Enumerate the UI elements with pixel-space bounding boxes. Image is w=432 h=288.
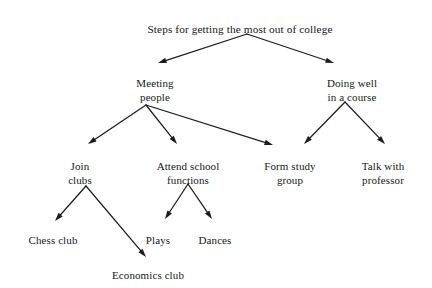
node-course: Doing wellin a course: [327, 76, 377, 104]
edge-meeting-to-functions: [146, 105, 173, 139]
node-clubs-line-1: Join: [68, 159, 92, 173]
node-study-line-2: group: [264, 173, 315, 187]
edges-group: [55, 34, 385, 257]
node-professor-line-2: professor: [362, 173, 405, 187]
node-dances-line-1: Dances: [199, 233, 232, 247]
node-dances: Dances: [199, 233, 232, 247]
node-professor-line-1: Talk with: [362, 159, 405, 173]
arrowhead-root-to-meeting: [158, 58, 167, 63]
node-economics: Economics club: [112, 268, 184, 282]
diagram-title: Steps for getting the most out of colleg…: [147, 22, 332, 36]
node-functions-line-1: Attend school: [157, 159, 220, 173]
node-chess: Chess club: [29, 233, 78, 247]
node-meeting-line-1: Meeting: [136, 76, 173, 90]
edge-course-to-professor: [345, 102, 381, 139]
arrowhead-functions-to-plays: [165, 210, 172, 219]
node-plays-line-1: Plays: [146, 233, 170, 247]
edge-functions-to-plays: [168, 184, 188, 214]
edge-meeting-to-clubs: [93, 105, 146, 140]
edge-functions-to-dances: [188, 184, 208, 214]
node-course-line-1: Doing well: [327, 76, 377, 90]
arrowhead-functions-to-dances: [205, 210, 212, 219]
edge-root-to-meeting: [164, 34, 247, 61]
edge-clubs-to-economics: [86, 186, 142, 252]
edge-clubs-to-chess: [59, 186, 86, 216]
college-steps-flowchart: Steps for getting the most out of colleg…: [0, 0, 432, 288]
node-functions-line-2: functions: [157, 173, 220, 187]
node-study-line-1: Form study: [264, 159, 315, 173]
node-course-line-2: in a course: [327, 90, 377, 104]
node-plays: Plays: [146, 233, 170, 247]
edge-root-to-course: [247, 34, 328, 61]
node-clubs: Joinclubs: [68, 159, 92, 187]
node-clubs-line-2: clubs: [68, 173, 92, 187]
arrowhead-meeting-to-study: [264, 140, 273, 145]
arrowhead-root-to-course: [325, 58, 334, 63]
edge-meeting-to-study: [146, 105, 267, 143]
arrowhead-meeting-to-clubs: [88, 137, 97, 144]
node-economics-line-1: Economics club: [112, 268, 184, 282]
node-chess-line-1: Chess club: [29, 233, 78, 247]
edge-course-to-study: [308, 102, 345, 139]
node-meeting: Meetingpeople: [136, 76, 173, 104]
node-meeting-line-2: people: [136, 90, 173, 104]
node-functions: Attend schoolfunctions: [157, 159, 220, 187]
node-professor: Talk withprofessor: [362, 159, 405, 187]
node-root-line-1: Steps for getting the most out of colleg…: [147, 22, 332, 36]
node-study: Form studygroup: [264, 159, 315, 187]
